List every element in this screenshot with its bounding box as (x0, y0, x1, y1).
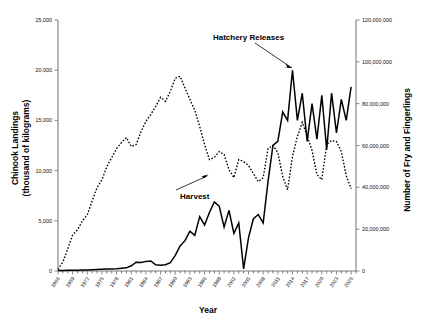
right-tick-label: 40,000,000 (362, 184, 389, 190)
right-tick-label: 0 (362, 268, 365, 274)
x-tick-label: 1993 (181, 276, 193, 289)
right-axis-title: Number of Fry and Fingerlings (402, 88, 412, 212)
x-tick-label: 2020 (313, 276, 325, 289)
right-tick-label: 60,000,000 (362, 143, 389, 149)
x-tick-label: 1990 (167, 276, 179, 289)
x-tick-label: 1978 (108, 276, 120, 289)
left-axis-title-line2: (thousand of kilograms) (21, 99, 31, 196)
left-tick-label: 0 (49, 268, 52, 274)
axis-layer: 05,00010,00015,00020,00025,000020,000,00… (36, 17, 392, 288)
annotation-harvest: Harvest (180, 192, 210, 201)
x-tick-label: 1966 (50, 276, 62, 289)
x-tick-label: 1975 (94, 276, 106, 289)
x-tick-label: 2005 (240, 276, 252, 289)
right-tick-label: 120,000,000 (362, 17, 392, 23)
series-harvest (58, 76, 351, 269)
chart-figure: 05,00010,00015,00020,00025,000020,000,00… (0, 0, 421, 322)
x-tick-label: 1987 (152, 276, 164, 289)
right-tick-label: 20,000,000 (362, 226, 389, 232)
x-tick-label: 1996 (196, 276, 208, 289)
left-tick-label: 20,000 (36, 67, 53, 73)
annotation-leader-harvest (176, 176, 207, 190)
x-tick-label: 2017 (299, 276, 311, 289)
series-hatchery-releases (58, 70, 351, 270)
series-layer (58, 70, 351, 270)
x-tick-label: 2014 (284, 276, 296, 289)
x-axis-title: Year (199, 305, 218, 315)
left-tick-label: 5,000 (39, 218, 53, 224)
annotation-hatchery-releases: Hatchery Releases (213, 33, 285, 42)
x-tick-label: 2008 (255, 276, 267, 289)
arrowhead-harvest (202, 175, 209, 181)
x-tick-label: 1984 (138, 276, 150, 289)
x-tick-label: 1969 (64, 276, 76, 289)
x-tick-label: 1981 (123, 276, 135, 289)
left-tick-label: 10,000 (36, 168, 53, 174)
arrowhead-hatchery (284, 64, 292, 68)
x-tick-label: 2026 (343, 276, 355, 289)
left-tick-label: 25,000 (36, 17, 53, 23)
right-tick-label: 100,000,000 (362, 59, 392, 65)
annotation-leader-hatchery (255, 43, 292, 68)
left-tick-label: 15,000 (36, 117, 53, 123)
x-tick-label: 2002 (225, 276, 237, 289)
right-tick-label: 80,000,000 (362, 101, 389, 107)
x-tick-label: 2023 (328, 276, 340, 289)
left-axis-title-line1: Chinook Landings (10, 111, 20, 185)
x-tick-label: 2011 (270, 275, 281, 288)
x-tick-label: 1972 (79, 276, 91, 289)
x-tick-label: 1999 (211, 276, 223, 289)
chart-canvas: 05,00010,00015,00020,00025,000020,000,00… (0, 0, 421, 322)
